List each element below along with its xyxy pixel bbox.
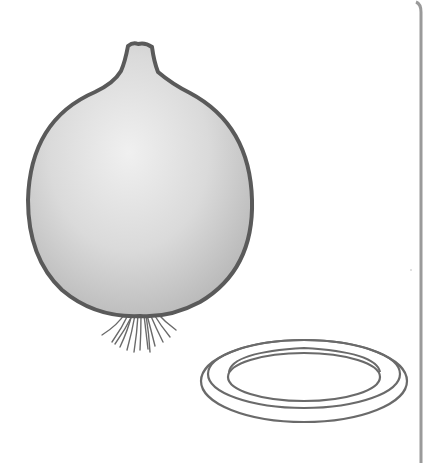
onion-bulb: [28, 43, 252, 316]
speck: [410, 269, 412, 271]
ring: [201, 340, 407, 422]
illustration: [0, 0, 434, 463]
border-line: [416, 2, 421, 463]
